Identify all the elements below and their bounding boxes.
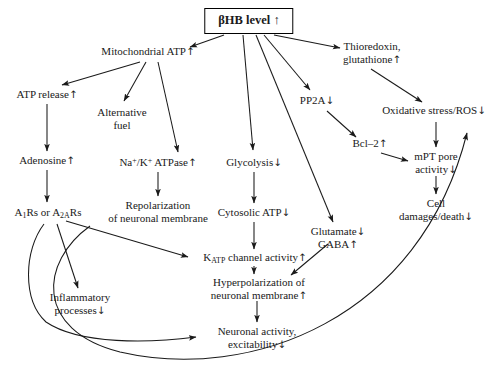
node-hyperpolarization: Hyperpolarization ofneuronal membrane↑ bbox=[198, 276, 320, 302]
edge-mito-atp-to-atp-release bbox=[62, 62, 140, 85]
edge-bhb-to-pp2a bbox=[264, 35, 310, 90]
node-cytosolic-atp: Cytosolic ATP↓ bbox=[218, 206, 291, 219]
node-mitochondrial-atp: Mitochondrial ATP↑ bbox=[101, 45, 194, 58]
edge-a1rs-to-neuronal-activity bbox=[29, 224, 197, 341]
node-a1rs-a2ars: A1Rs or A2ARs bbox=[15, 206, 82, 220]
node-mpt-pore-activity: mPT poreactivity↓ bbox=[399, 150, 473, 176]
node-glycolysis: Glycolysis↓ bbox=[226, 156, 282, 169]
edge-bhb-to-glutamate-gaba bbox=[256, 35, 333, 222]
bhb-level-title-box: βHB level ↑ bbox=[204, 8, 293, 34]
node-cell-damages-death: Celldamages/death↓ bbox=[381, 197, 491, 223]
node-thioredoxin-glutathione: Thioredoxin,glutathione↑ bbox=[326, 40, 418, 66]
edge-thioredoxin-to-oxidative bbox=[371, 69, 422, 102]
edge-mito-atp-to-alternative-fuel bbox=[124, 62, 146, 101]
node-bcl-2: Bcl–2↑ bbox=[353, 137, 388, 150]
diagram-canvas: βHB level ↑ Mitochondrial ATP↑ Thioredox… bbox=[0, 0, 494, 375]
edge-pp2a-to-bcl-2 bbox=[327, 111, 356, 137]
node-katp-channel-activity: KATP channel activity↑ bbox=[203, 251, 306, 265]
edge-a1rs-to-inflammatory bbox=[57, 224, 78, 288]
node-inflammatory-processes: Inflammatoryprocesses↓ bbox=[34, 291, 126, 317]
edge-bhb-to-mitochondrial-atp bbox=[190, 35, 224, 47]
node-atp-release: ATP release↑ bbox=[16, 88, 77, 101]
node-na-k-atpase: Na+/K+ ATPase↑ bbox=[119, 156, 196, 169]
node-pp2a: PP2A↓ bbox=[300, 94, 334, 107]
edge-a1rs-to-katp bbox=[66, 221, 188, 257]
edge-layer bbox=[0, 0, 494, 375]
node-oxidative-stress-ros: Oxidative stress/ROS↓ bbox=[382, 104, 486, 117]
edge-bhb-to-glycolysis bbox=[243, 35, 253, 150]
node-glutamate-gaba: Glutamate↓GABA↑ bbox=[299, 225, 377, 251]
node-neuronal-activity: Neuronal activity,excitability↓ bbox=[202, 325, 312, 351]
node-alternative-fuel: Alternativefuel bbox=[82, 106, 162, 132]
node-adenosine: Adenosine↑ bbox=[19, 154, 75, 167]
node-repolarization: Repolarizationof neuronal membrane bbox=[93, 199, 223, 225]
